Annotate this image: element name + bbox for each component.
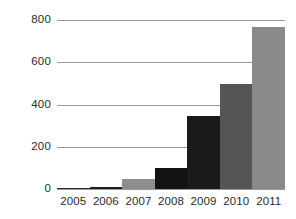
y-tick-label-600: 600 [31, 56, 51, 68]
bar-slot-2010 [220, 20, 253, 189]
y-tick-label-200: 200 [31, 141, 51, 153]
x-tick-label-2007: 2007 [122, 191, 155, 211]
y-tick-label-0: 0 [44, 183, 51, 195]
bar-slot-2006 [90, 20, 123, 189]
y-tick-label-800: 800 [31, 14, 51, 26]
bar-slot-2009 [187, 20, 220, 189]
plot-area [57, 20, 285, 189]
x-tick-label-2008: 2008 [155, 191, 188, 211]
x-tick-label-2010: 2010 [220, 191, 253, 211]
bar-2011[interactable] [252, 27, 285, 189]
x-tick-label-2006: 2006 [90, 191, 123, 211]
bar-2005[interactable] [57, 188, 90, 189]
x-tick-label-2009: 2009 [187, 191, 220, 211]
bar-2006[interactable] [90, 187, 123, 189]
bar-series [57, 20, 285, 189]
x-axis-tick-labels: 2005 2006 2007 2008 2009 2010 2011 [57, 191, 285, 211]
x-tick-label-2011: 2011 [252, 191, 285, 211]
bar-2009[interactable] [187, 116, 220, 189]
bar-slot-2011 [252, 20, 285, 189]
y-axis-tick-labels: 800 600 400 200 0 [0, 20, 51, 189]
x-tick-label-2005: 2005 [57, 191, 90, 211]
bar-slot-2007 [122, 20, 155, 189]
bar-chart: 800 600 400 200 0 2005 2006 2007 2008 20… [0, 0, 296, 219]
bar-2007[interactable] [122, 179, 155, 189]
bar-slot-2005 [57, 20, 90, 189]
bar-slot-2008 [155, 20, 188, 189]
y-tick-label-400: 400 [31, 99, 51, 111]
bar-2008[interactable] [155, 168, 188, 189]
gridline-0 [57, 189, 285, 190]
bar-2010[interactable] [220, 84, 253, 189]
